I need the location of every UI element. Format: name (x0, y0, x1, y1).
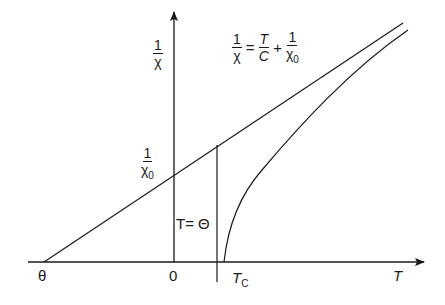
eq-t-over-c: T C (259, 32, 270, 63)
linear-fit-line (44, 23, 403, 262)
theta-tick-label: θ (38, 268, 46, 283)
measured-curve (224, 30, 408, 262)
intercept-den-sub: 0 (148, 170, 154, 181)
diagram-lines (0, 0, 445, 305)
tc-t: T (232, 269, 241, 286)
intercept-num: 1 (143, 146, 153, 162)
eq-equals: = (246, 39, 255, 56)
intercept-label: 1 χ0 (141, 146, 154, 181)
eq-t-num: T (259, 32, 270, 48)
eq-t-den: C (259, 48, 269, 63)
eq-plus: + (273, 39, 282, 56)
eq-rhs: 1 χ0 (286, 30, 299, 65)
theta-line-label: T= Θ (176, 216, 210, 231)
y-axis-label: 1 χ (153, 38, 163, 69)
y-label-numerator: 1 (153, 38, 163, 54)
zero-tick-label: 0 (169, 268, 177, 283)
tc-tick-label: TC (232, 270, 248, 289)
curie-weiss-equation: 1 χ = T C + 1 χ0 (232, 30, 299, 65)
eq-lhs: 1 χ (232, 32, 242, 63)
eq-rhs-num: 1 (287, 30, 297, 46)
curie-weiss-diagram: 1 χ 1 χ = T C + 1 χ0 1 χ0 T= Θ θ 0 TC T (0, 0, 445, 305)
eq-rhs-den: χ0 (286, 46, 299, 65)
y-label-denominator: χ (154, 54, 161, 69)
eq-rhs-den-sub: 0 (293, 54, 299, 65)
x-axis-label: T (393, 268, 402, 283)
intercept-den: χ0 (141, 162, 154, 181)
tc-sub: C (241, 278, 248, 289)
eq-lhs-num: 1 (232, 32, 242, 48)
eq-lhs-den: χ (233, 48, 240, 63)
